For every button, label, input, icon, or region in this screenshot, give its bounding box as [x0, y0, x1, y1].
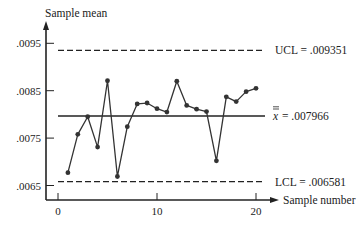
data-point — [75, 132, 80, 137]
x-axis-title: Sample number — [283, 194, 356, 207]
labels: .0065.0075.0085.009501020Sample meanSamp… — [16, 7, 355, 217]
data-point — [165, 110, 170, 115]
y-tick-label: .0085 — [16, 85, 41, 97]
y-tick-label: .0075 — [16, 132, 41, 144]
data-point — [145, 101, 150, 106]
data-point — [135, 102, 140, 107]
data-point — [66, 170, 71, 175]
axes — [43, 21, 279, 203]
data-point — [234, 99, 239, 104]
data-series — [66, 78, 259, 179]
data-point — [244, 89, 249, 94]
y-tick-label: .0065 — [16, 180, 41, 192]
data-point — [155, 106, 160, 111]
data-point — [184, 103, 189, 108]
data-point — [254, 86, 259, 91]
data-point — [95, 145, 100, 150]
data-point — [115, 174, 120, 179]
lcl-label: LCL = .006581 — [275, 176, 346, 188]
data-point — [204, 109, 209, 114]
center-line-value: = .007966 — [282, 110, 329, 122]
x-tick-label: 20 — [251, 205, 263, 217]
data-point — [174, 79, 179, 84]
data-point — [105, 78, 110, 83]
data-point — [85, 114, 90, 119]
y-tick-label: .0095 — [16, 37, 41, 49]
ucl-label: UCL = .009351 — [275, 44, 347, 56]
center-line-label: x= .007966 — [272, 107, 329, 122]
data-point — [194, 107, 199, 112]
data-point — [214, 158, 219, 163]
data-point — [125, 124, 130, 129]
x-axis-arrow-icon — [270, 197, 279, 203]
control-chart: .0065.0075.0085.009501020Sample meanSamp… — [0, 0, 357, 228]
x-tick-label: 10 — [152, 205, 164, 217]
y-axis-arrow-icon — [43, 21, 49, 30]
xbarbar-symbol: x — [272, 110, 279, 122]
x-tick-label: 0 — [55, 205, 61, 217]
y-axis-title: Sample mean — [45, 7, 108, 20]
data-point — [224, 94, 229, 99]
